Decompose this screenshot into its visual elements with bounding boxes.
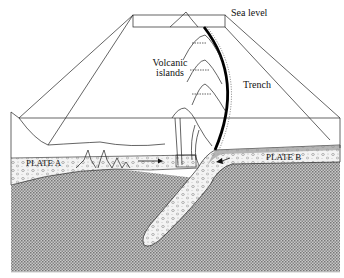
plate-a-label: PLATE A (26, 158, 61, 168)
trench (204, 27, 232, 150)
subduction-diagram (0, 0, 344, 278)
ocean-block (11, 15, 340, 158)
trench-label: Trench (243, 80, 271, 90)
sea-level-label: Sea level (231, 8, 267, 18)
volcanic-islands-label-line2: islands (150, 68, 190, 78)
volcanic-islands-label: Volcanic islands (150, 58, 190, 78)
plate-b-label: PLATE B (266, 152, 301, 162)
